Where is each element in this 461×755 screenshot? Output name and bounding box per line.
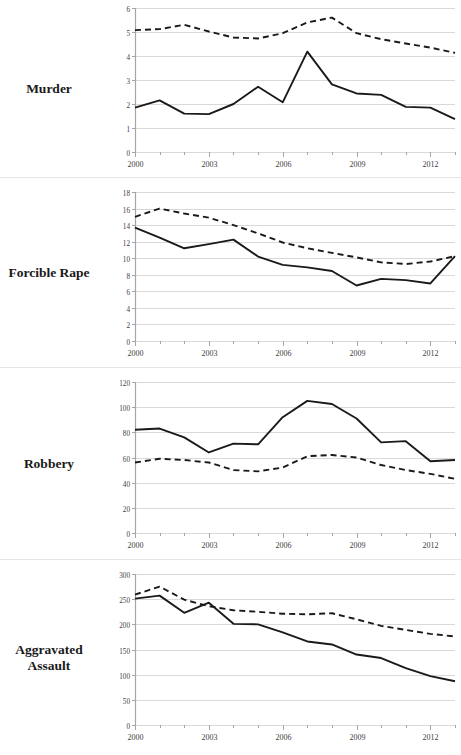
x-tick-label: 2006 <box>276 349 292 358</box>
chart-row-murder: Murder 012345620002003200620092012 <box>0 0 461 178</box>
x-tick-label: 2006 <box>276 160 292 169</box>
y-tick-label: 14 <box>123 223 131 231</box>
x-axis-aggravated_assault: 20002003200620092012 <box>128 725 439 742</box>
x-tick-label: 2003 <box>202 541 218 550</box>
y-tick-label: 300 <box>119 572 130 580</box>
y-tick-label: 3 <box>126 78 130 86</box>
y-tick-label: 16 <box>123 207 131 215</box>
x-tick-label: 2009 <box>350 733 366 742</box>
x-tick-label: 2009 <box>350 349 366 358</box>
row-label-murder: Murder <box>0 0 100 178</box>
gridlines-aggravated_assault: 050100150200250300 <box>119 572 455 731</box>
row-label-aggravated-assault-line1: Aggravated <box>15 642 83 657</box>
y-tick-label: 20 <box>123 506 131 514</box>
chart-svg-aggravated_assault: 05010015020025030020002003200620092012 <box>100 560 461 755</box>
y-tick-label: 2 <box>126 322 130 330</box>
row-label-robbery-text: Robbery <box>24 456 74 472</box>
x-axis-murder: 20002003200620092012 <box>128 152 439 169</box>
y-tick-label: 1 <box>126 126 130 134</box>
x-tick-label: 2012 <box>423 541 439 550</box>
x-tick-label: 2009 <box>350 541 366 550</box>
series-line-solid-murder <box>135 52 455 119</box>
y-tick-label: 0 <box>126 531 130 539</box>
y-tick-label: 0 <box>126 150 130 158</box>
x-tick-label: 2000 <box>128 160 144 169</box>
chart-separator <box>0 367 461 368</box>
row-label-aggravated-assault-line2: Assault <box>28 658 71 673</box>
y-tick-label: 8 <box>126 273 130 281</box>
x-tick-label: 2000 <box>128 349 144 358</box>
x-tick-label: 2012 <box>423 733 439 742</box>
y-tick-label: 40 <box>123 481 131 489</box>
plot-aggravated-assault: 05010015020025030020002003200620092012 <box>100 560 461 755</box>
row-label-aggravated-assault-text: Aggravated Assault <box>15 642 83 673</box>
x-tick-label: 2003 <box>202 160 218 169</box>
chart-row-forcible-rape: Forcible Rape 02468101214161820002003200… <box>0 178 461 368</box>
x-tick-label: 2006 <box>276 541 292 550</box>
x-tick-label: 2000 <box>128 541 144 550</box>
y-tick-label: 6 <box>126 289 130 297</box>
y-tick-label: 18 <box>123 190 131 198</box>
chart-separator <box>0 177 461 178</box>
chart-svg-robbery: 02040608010012020002003200620092012 <box>100 368 461 560</box>
y-tick-label: 2 <box>126 102 130 110</box>
y-tick-label: 100 <box>119 673 130 681</box>
y-tick-label: 6 <box>126 6 130 14</box>
series-line-dashed-forcible_rape <box>135 209 455 264</box>
gridlines-murder: 0123456 <box>126 6 455 158</box>
x-axis-forcible_rape: 20002003200620092012 <box>128 341 439 358</box>
small-multiples-chart-stack: Murder 012345620002003200620092012 Forci… <box>0 0 461 755</box>
y-tick-label: 10 <box>123 256 131 264</box>
plot-murder: 012345620002003200620092012 <box>100 0 461 178</box>
row-label-aggravated-assault: Aggravated Assault <box>0 560 100 755</box>
y-tick-label: 12 <box>123 240 131 248</box>
chart-separator <box>0 559 461 560</box>
y-tick-label: 200 <box>119 622 130 630</box>
y-tick-label: 120 <box>119 380 130 388</box>
y-tick-label: 0 <box>126 723 130 731</box>
chart-row-aggravated-assault: Aggravated Assault 050100150200250300200… <box>0 560 461 755</box>
y-tick-label: 50 <box>123 698 131 706</box>
row-label-forcible-rape: Forcible Rape <box>0 178 100 368</box>
row-label-robbery: Robbery <box>0 368 100 560</box>
series-line-solid-robbery <box>135 401 455 461</box>
y-tick-label: 0 <box>126 339 130 347</box>
row-label-murder-text: Murder <box>26 81 72 97</box>
series-line-dashed-murder <box>135 18 455 53</box>
x-tick-label: 2000 <box>128 733 144 742</box>
x-axis-robbery: 20002003200620092012 <box>128 533 439 550</box>
x-tick-label: 2003 <box>202 349 218 358</box>
chart-row-robbery: Robbery 02040608010012020002003200620092… <box>0 368 461 560</box>
y-tick-label: 60 <box>123 456 131 464</box>
x-tick-label: 2006 <box>276 733 292 742</box>
plot-robbery: 02040608010012020002003200620092012 <box>100 368 461 560</box>
series-line-solid-aggravated_assault <box>135 596 455 682</box>
y-tick-label: 4 <box>126 54 130 62</box>
series-line-solid-forcible_rape <box>135 228 455 286</box>
y-tick-label: 4 <box>126 306 130 314</box>
y-tick-label: 250 <box>119 597 130 605</box>
gridlines-forcible_rape: 024681012141618 <box>123 190 455 347</box>
plot-forcible-rape: 02468101214161820002003200620092012 <box>100 178 461 368</box>
y-tick-label: 100 <box>119 405 130 413</box>
x-tick-label: 2012 <box>423 349 439 358</box>
y-tick-label: 5 <box>126 30 130 38</box>
y-tick-label: 150 <box>119 648 130 656</box>
y-tick-label: 80 <box>123 430 131 438</box>
x-tick-label: 2009 <box>350 160 366 169</box>
chart-svg-forcible_rape: 02468101214161820002003200620092012 <box>100 178 461 368</box>
row-label-forcible-rape-text: Forcible Rape <box>8 265 89 281</box>
chart-svg-murder: 012345620002003200620092012 <box>100 0 461 178</box>
x-tick-label: 2012 <box>423 160 439 169</box>
x-tick-label: 2003 <box>202 733 218 742</box>
